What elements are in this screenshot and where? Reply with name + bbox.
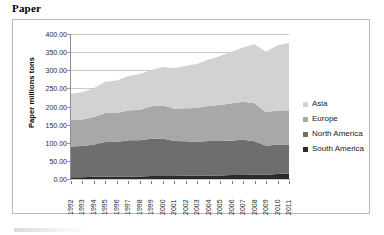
x-axis-tick-label: 2001 — [170, 199, 177, 215]
x-axis-tick-mark — [186, 181, 187, 184]
x-axis-tick-label: 2006 — [228, 199, 235, 215]
x-axis-tick-mark — [220, 181, 221, 184]
page-title: Paper — [12, 2, 41, 14]
x-axis-tick-label: 1994 — [90, 199, 97, 215]
area-series-north-america — [71, 138, 289, 177]
legend-item: Asia — [303, 100, 364, 108]
y-axis-tick-label: 0.00 — [53, 176, 67, 183]
y-axis-tick-label: 200.00 — [46, 103, 67, 110]
x-axis-tick-label: 2002 — [182, 199, 189, 215]
y-axis-tick-labels: 0.0050.00100.00150.00200.00250.00300.003… — [31, 20, 67, 215]
x-axis-tick-mark — [82, 181, 83, 184]
y-axis-tick-label: 150.00 — [46, 121, 67, 128]
chart-screenshot: Paper Paper millions tons 0.0050.00100.0… — [0, 0, 384, 235]
legend-item: Europe — [303, 115, 364, 123]
x-axis-tick-label: 1998 — [136, 199, 143, 215]
chart-frame: Paper millions tons 0.0050.00100.00150.0… — [12, 19, 370, 214]
x-axis-tick-mark — [163, 181, 164, 184]
legend-item: South America — [303, 145, 364, 153]
x-axis-tick-label: 2004 — [205, 199, 212, 215]
x-axis-tick-label: 2008 — [251, 199, 258, 215]
y-axis-tick-label: 100.00 — [46, 139, 67, 146]
x-axis-tick-label: 1992 — [67, 199, 74, 215]
x-axis-tick-mark — [255, 181, 256, 184]
x-axis-tick-label: 1995 — [101, 199, 108, 215]
legend-item-label: Europe — [312, 115, 338, 123]
x-axis-tick-label: 2003 — [193, 199, 200, 215]
x-axis-tick-mark — [289, 181, 290, 184]
x-axis-tick-mark — [278, 181, 279, 184]
stacked-area-series — [71, 34, 289, 179]
x-axis-tick-mark — [209, 181, 210, 184]
y-axis-tick-label: 350.00 — [46, 49, 67, 56]
x-axis-tick-label: 1997 — [124, 199, 131, 215]
x-axis-tick-labels: 1992199319941995199619971998199920002001… — [71, 181, 289, 215]
x-axis-tick-label: 2000 — [159, 199, 166, 215]
legend-swatch-icon — [303, 147, 308, 152]
plot-area — [71, 34, 289, 179]
x-axis-tick-mark — [266, 181, 267, 184]
legend-swatch-icon — [303, 102, 308, 107]
x-axis-tick-label: 1996 — [113, 199, 120, 215]
chart-legend: AsiaEuropeNorth AmericaSouth America — [303, 100, 364, 153]
legend-swatch-icon — [303, 117, 308, 122]
x-axis-tick-label: 2009 — [262, 199, 269, 215]
x-axis-tick-label: 2007 — [239, 199, 246, 215]
x-axis-tick-mark — [117, 181, 118, 184]
x-axis-tick-mark — [243, 181, 244, 184]
legend-item: North America — [303, 130, 364, 138]
x-axis-tick-mark — [174, 181, 175, 184]
legend-item-label: North America — [312, 130, 363, 138]
x-axis-tick-label: 1993 — [78, 199, 85, 215]
x-axis-tick-mark — [94, 181, 95, 184]
plot-wrapper: Paper millions tons 0.0050.00100.00150.0… — [13, 20, 371, 215]
gridline — [71, 179, 289, 180]
x-axis-tick-mark — [128, 181, 129, 184]
x-axis-tick-label: 1999 — [147, 199, 154, 215]
y-axis-tick-label: 50.00 — [49, 157, 67, 164]
x-axis-tick-mark — [151, 181, 152, 184]
x-axis-tick-mark — [232, 181, 233, 184]
y-axis-tick-label: 250.00 — [46, 85, 67, 92]
x-axis-tick-label: 2005 — [216, 199, 223, 215]
legend-item-label: Asia — [312, 100, 328, 108]
legend-swatch-icon — [303, 132, 308, 137]
page-edge-artifact — [14, 228, 134, 232]
x-axis-tick-mark — [105, 181, 106, 184]
legend-item-label: South America — [312, 145, 364, 153]
y-axis-tick-label: 400.00 — [46, 31, 67, 38]
x-axis-tick-label: 2011 — [285, 200, 292, 215]
x-axis-tick-mark — [197, 181, 198, 184]
x-axis-tick-mark — [140, 181, 141, 184]
x-axis-tick-label: 2010 — [274, 199, 281, 215]
x-axis-tick-mark — [71, 181, 72, 184]
y-axis-tick-label: 300.00 — [46, 67, 67, 74]
